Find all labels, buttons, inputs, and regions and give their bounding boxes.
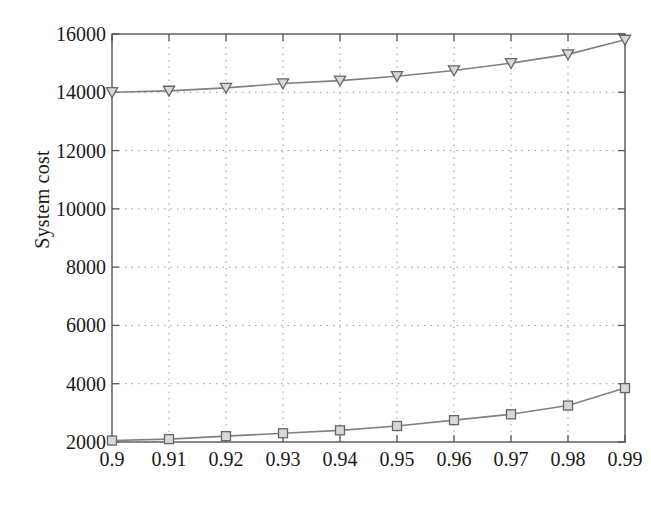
data-point-marker [507,410,516,419]
y-tick-label: 6000 [22,315,106,335]
y-tick-label: 4000 [22,374,106,394]
data-point-marker [564,401,573,410]
x-tick-label: 0.99 [590,449,651,469]
gridlines [112,34,625,442]
series-lower-series [108,384,630,445]
data-point-marker [450,416,459,425]
data-point-marker [336,426,345,435]
plot-border [112,34,625,442]
y-tick-label: 14000 [22,82,106,102]
y-tick-label: 16000 [22,24,106,44]
chart-figure: System cost 2000 4000 6000 8000 10000 12… [0,0,651,524]
y-tick-label-group: 2000 4000 6000 8000 10000 12000 14000 16… [14,0,106,524]
y-tick-label: 10000 [22,199,106,219]
axis-ticks [112,34,625,442]
data-point-marker [393,421,402,430]
data-point-marker [621,384,630,393]
y-tick-label: 8000 [22,257,106,277]
series-upper-series [106,35,630,97]
data-series-layer [106,35,630,445]
data-point-marker [165,435,174,444]
data-point-marker [108,436,117,445]
data-point-marker [222,432,231,441]
y-tick-label: 12000 [22,141,106,161]
data-point-marker [279,429,288,438]
